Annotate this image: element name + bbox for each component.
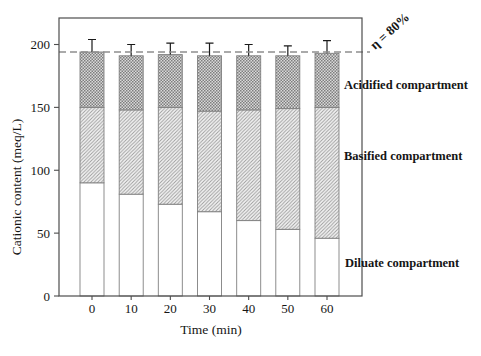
x-axis-title: Time (min) [180, 322, 241, 337]
stacked-bar-chart-figure: 0102030405060050100150200 Cationic conte… [0, 0, 481, 356]
error-bar-t10 [127, 45, 135, 56]
error-bar-t50 [284, 46, 292, 56]
bar-segment-diagonal-hatch-t30 [198, 111, 222, 212]
error-bars-group [88, 40, 331, 56]
bar-segment-diagonal-hatch-t0 [80, 107, 104, 182]
y-axis-title: Cationic content (meq/L) [9, 119, 24, 255]
error-bar-t40 [245, 45, 253, 56]
bar-segment-checker-t30 [198, 56, 222, 111]
bar-segment-diagonal-hatch-t40 [237, 110, 261, 221]
chart-canvas: 0102030405060050100150200 Cationic conte… [0, 0, 481, 356]
y-tick-label: 150 [31, 100, 51, 115]
y-tick-label: 50 [37, 226, 50, 241]
x-tick-label: 40 [242, 301, 255, 316]
bar-segment-checker-t0 [80, 52, 104, 107]
error-bar-t30 [206, 43, 214, 56]
legend-label-acidified: Acidified compartment [344, 78, 469, 92]
bar-segment-diagonal-hatch-t10 [119, 110, 143, 194]
bar-segment-plain-t50 [276, 229, 300, 296]
bar-segment-plain-t30 [198, 212, 222, 296]
bar-segment-diagonal-hatch-t60 [315, 107, 339, 238]
x-tick-label: 50 [281, 301, 294, 316]
legend-label-diluate: Diluate compartment [345, 256, 460, 270]
bar-segment-checker-t40 [237, 56, 261, 110]
x-tick-label: 10 [125, 301, 138, 316]
y-tick-label: 100 [31, 163, 51, 178]
bar-segment-checker-t20 [158, 55, 182, 108]
bar-segment-diagonal-hatch-t20 [158, 107, 182, 204]
error-bar-t0 [88, 40, 96, 53]
bar-segment-plain-t60 [315, 238, 339, 296]
x-tick-label: 60 [321, 301, 334, 316]
bars-group [80, 52, 339, 296]
error-bar-t20 [166, 43, 174, 54]
x-tick-label: 30 [203, 301, 216, 316]
legend-label-basified: Basified compartment [344, 149, 463, 163]
bar-segment-plain-t20 [158, 204, 182, 296]
reference-line-label: η = 80% [367, 9, 412, 52]
y-tick-label: 0 [44, 289, 51, 304]
bar-segment-plain-t10 [119, 194, 143, 296]
x-tick-label: 20 [164, 301, 177, 316]
bar-segment-checker-t10 [119, 56, 143, 110]
bar-segment-diagonal-hatch-t50 [276, 109, 300, 230]
y-tick-label: 200 [31, 37, 51, 52]
bar-segment-checker-t50 [276, 56, 300, 109]
bar-segment-plain-t40 [237, 221, 261, 296]
bar-segment-checker-t60 [315, 53, 339, 107]
x-tick-label: 0 [89, 301, 96, 316]
bar-segment-plain-t0 [80, 183, 104, 296]
